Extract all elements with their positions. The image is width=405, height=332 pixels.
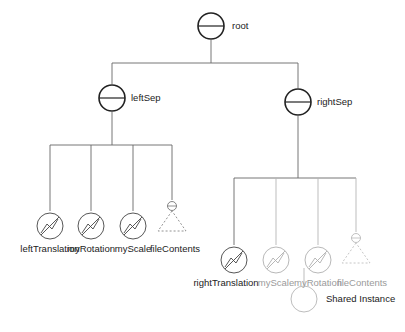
file-contents-label-left: fileContents	[150, 244, 200, 254]
root-label: root	[232, 21, 248, 31]
file-contents-label-right: fileContents	[337, 278, 387, 288]
shared-instance-legend-label: Shared Instance	[326, 294, 395, 304]
my-scale-node-left[interactable]	[120, 213, 146, 239]
file-contents-node-left[interactable]	[158, 202, 186, 232]
root-node[interactable]	[198, 13, 224, 39]
file-contents-node-right[interactable]	[342, 234, 370, 264]
my-rotation-node-right[interactable]	[305, 247, 331, 273]
left-translation-node[interactable]	[37, 213, 63, 239]
my-rotation-label-left: myRotation	[67, 244, 115, 254]
shared-instance-legend-icon	[291, 286, 317, 312]
my-rotation-label-right: myRotation	[294, 278, 342, 288]
leftsep-label: leftSep	[131, 93, 161, 103]
my-scale-label-left: myScale	[115, 244, 151, 254]
right-translation-node[interactable]	[221, 247, 247, 273]
right-translation-label: rightTranslation	[193, 278, 258, 288]
my-scale-node-right[interactable]	[263, 247, 289, 273]
my-rotation-node-left[interactable]	[78, 213, 104, 239]
leftsep-node[interactable]	[99, 85, 125, 111]
rightsep-node[interactable]	[285, 89, 311, 115]
rightsep-label: rightSep	[317, 97, 352, 107]
my-scale-label-right: myScale	[258, 278, 294, 288]
